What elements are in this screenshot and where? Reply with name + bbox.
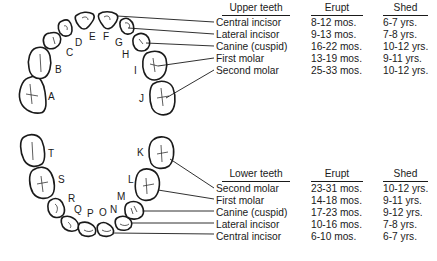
tooth-letter-O: O [99, 207, 107, 218]
tooth-G [120, 18, 134, 34]
lower-erupt-value: 17-23 mos. [311, 207, 362, 219]
tooth-letter-F: F [103, 31, 109, 42]
lower-shed-value: 9-11 yrs. [383, 195, 428, 207]
tooth-letter-T: T [48, 148, 54, 159]
leader-lower-second-molar [170, 159, 214, 188]
tooth-C [43, 32, 60, 48]
tooth-letter-P: P [87, 208, 94, 219]
tooth-letter-Q: Q [74, 204, 82, 215]
upper-tooth-name: First molar [216, 53, 287, 65]
tooth-letter-N: N [110, 204, 117, 215]
lower-erupt-value: 10-16 mos. [311, 219, 362, 231]
upper-shed-column: 6-7 yrs. 7-8 yrs. 10-12 yrs. 9-11 yrs. 1… [383, 17, 428, 77]
tooth-P [78, 222, 96, 236]
tooth-E [75, 12, 94, 29]
upper-erupt-value: 25-33 mos. [311, 65, 362, 77]
tooth-letter-R: R [68, 193, 75, 204]
upper-shed-value: 9-11 yrs. [383, 53, 428, 65]
lower-tooth-name: Second molar [216, 183, 287, 195]
leader-lower-first-molar [158, 190, 214, 199]
tooth-letter-D: D [75, 37, 82, 48]
tooth-M [125, 202, 144, 220]
tooth-letter-A: A [48, 91, 55, 102]
leader-upper-canine [146, 43, 214, 46]
tooth-R [48, 199, 65, 218]
upper-shed-header: Shed [383, 2, 428, 16]
lower-teeth-header: Lower teeth [222, 168, 290, 182]
tooth-letter-H: H [122, 49, 129, 60]
lower-shed-column: 10-12 yrs. 9-11 yrs. 9-12 yrs. 7-8 yrs. … [383, 183, 428, 243]
tooth-letter-K: K [137, 147, 144, 158]
tooth-letter-C: C [66, 47, 73, 58]
lower-erupt-value: 23-31 mos. [311, 183, 362, 195]
lower-tooth-name: Canine (cuspid) [216, 207, 287, 219]
tooth-letter-J: J [139, 93, 144, 104]
upper-tooth-name: Canine (cuspid) [216, 41, 287, 53]
upper-shed-value: 7-8 yrs. [383, 29, 428, 41]
tooth-letter-M: M [117, 191, 125, 202]
tooth-letter-I: I [134, 65, 137, 76]
upper-tooth-name: Second molar [216, 65, 287, 77]
lower-tooth-name: Lateral incisor [216, 219, 287, 231]
lower-tooth-name: Central incisor [216, 231, 287, 243]
lower-shed-value: 9-12 yrs. [383, 207, 428, 219]
upper-tooth-name: Lateral incisor [216, 29, 287, 41]
lower-tooth-column: Second molar First molar Canine (cuspid)… [216, 183, 287, 243]
lower-erupt-value: 6-10 mos. [311, 231, 362, 243]
tooth-letter-L: L [128, 174, 134, 185]
tooth-L [135, 169, 159, 200]
tooth-letter-S: S [58, 174, 65, 185]
lower-erupt-value: 14-18 mos. [311, 195, 362, 207]
upper-teeth-header: Upper teeth [222, 2, 290, 16]
lower-shed-value: 6-7 yrs. [383, 231, 428, 243]
tooth-O [97, 223, 113, 237]
upper-shed-value: 6-7 yrs. [383, 17, 428, 29]
upper-erupt-value: 8-12 mos. [311, 17, 362, 29]
lower-shed-header: Shed [383, 168, 428, 182]
upper-erupt-value: 13-19 mos. [311, 53, 362, 65]
lower-tooth-name: First molar [216, 195, 287, 207]
tooth-B [28, 47, 50, 78]
upper-arch: A B C D E F G H I J [19, 12, 214, 115]
tooth-D [58, 20, 72, 36]
lower-shed-value: 10-12 yrs. [383, 183, 428, 195]
lower-erupt-header: Erupt [311, 168, 363, 182]
tooth-letter-B: B [55, 64, 62, 75]
upper-tooth-column: Central incisor Lateral incisor Canine (… [216, 17, 287, 77]
leader-lower-central-incisor [113, 233, 214, 234]
tooth-A [19, 76, 45, 113]
lower-arch: T S R Q P O N M L K [21, 135, 214, 237]
upper-shed-value: 10-12 yrs. [383, 65, 428, 77]
upper-erupt-value: 16-22 mos. [311, 41, 362, 53]
upper-erupt-value: 9-13 mos. [311, 29, 362, 41]
tooth-F [98, 12, 117, 29]
leader-upper-second-molar [166, 70, 214, 98]
tooth-letter-G: G [115, 37, 123, 48]
lower-shed-value: 7-8 yrs. [383, 219, 428, 231]
upper-shed-value: 10-12 yrs. [383, 41, 428, 53]
tooth-letter-E: E [89, 31, 96, 42]
upper-erupt-column: 8-12 mos. 9-13 mos. 16-22 mos. 13-19 mos… [311, 17, 362, 77]
upper-tooth-name: Central incisor [216, 17, 287, 29]
upper-erupt-header: Erupt [311, 2, 363, 16]
lower-erupt-column: 23-31 mos. 14-18 mos. 17-23 mos. 10-16 m… [311, 183, 362, 243]
